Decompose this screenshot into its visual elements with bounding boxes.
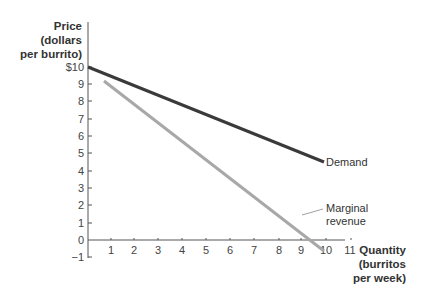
svg-text:per week): per week): [353, 272, 406, 284]
svg-text:$10: $10: [66, 61, 84, 73]
marginal-revenue-leader: [302, 209, 323, 215]
demand-line: [88, 67, 324, 162]
svg-text:(dollars: (dollars: [40, 34, 82, 46]
y-tick: 3: [78, 182, 92, 194]
svg-text:5: 5: [78, 147, 84, 159]
x-tick: 2: [131, 238, 137, 256]
svg-text:7: 7: [78, 113, 84, 125]
x-tick: 4: [179, 238, 185, 256]
y-tick: 9: [78, 78, 92, 90]
x-tick: 8: [276, 238, 282, 256]
y-tick: 4: [78, 165, 92, 177]
x-tick: 11: [344, 238, 355, 256]
svg-text:6: 6: [227, 244, 233, 256]
svg-text:4: 4: [179, 244, 185, 256]
x-axis-title: Quantity (burritos per week): [353, 244, 407, 284]
demand-marginal-revenue-chart: Price (dollars per burrito) $10 9 8 7 6 …: [0, 0, 427, 291]
svg-text:8: 8: [276, 244, 282, 256]
svg-text:Quantity: Quantity: [359, 244, 406, 256]
svg-text:3: 3: [78, 182, 84, 194]
svg-text:4: 4: [78, 165, 84, 177]
svg-text:per burrito): per burrito): [20, 48, 82, 60]
svg-text:6: 6: [78, 130, 84, 142]
demand-label: Demand: [326, 156, 368, 168]
y-tick: 5: [78, 147, 92, 159]
x-tick: 1: [108, 238, 114, 256]
x-tick: 10: [320, 238, 332, 256]
x-tick: 9: [298, 238, 304, 256]
marginal-revenue-label-line1: Marginal: [326, 202, 368, 214]
svg-text:1: 1: [108, 244, 114, 256]
y-tick: −1: [71, 251, 92, 263]
x-tick: 5: [203, 238, 209, 256]
y-tick: 0: [78, 234, 84, 246]
svg-text:(burritos: (burritos: [359, 258, 406, 270]
svg-text:2: 2: [78, 199, 84, 211]
x-tick: 7: [251, 238, 257, 256]
svg-text:0: 0: [78, 234, 84, 246]
svg-text:−1: −1: [71, 251, 84, 263]
svg-text:9: 9: [78, 78, 84, 90]
x-tick: 6: [227, 238, 233, 256]
y-tick: 8: [78, 95, 92, 107]
svg-text:2: 2: [131, 244, 137, 256]
svg-text:8: 8: [78, 95, 84, 107]
svg-text:11: 11: [344, 244, 355, 256]
svg-text:3: 3: [155, 244, 161, 256]
y-tick: 6: [78, 130, 92, 142]
svg-text:1: 1: [78, 217, 84, 229]
svg-text:9: 9: [298, 244, 304, 256]
marginal-revenue-label-line2: revenue: [326, 215, 366, 227]
svg-text:5: 5: [203, 244, 209, 256]
y-tick: 2: [78, 199, 92, 211]
y-tick: 1: [78, 217, 92, 229]
svg-text:Price: Price: [54, 20, 82, 32]
marginal-revenue-line: [104, 81, 324, 251]
y-tick: 7: [78, 113, 92, 125]
svg-text:7: 7: [251, 244, 257, 256]
x-tick: 3: [155, 238, 161, 256]
y-axis-title: Price (dollars per burrito): [20, 20, 82, 60]
